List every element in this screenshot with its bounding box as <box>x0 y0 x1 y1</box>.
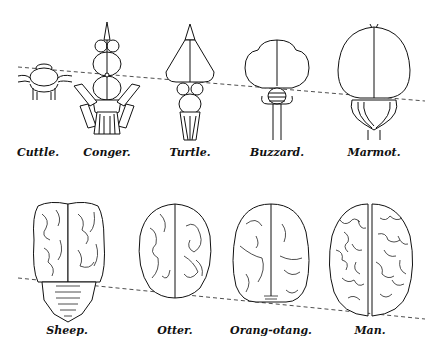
sheep-brain-drawing <box>34 202 105 322</box>
label-marmot: Marmot. <box>348 146 401 159</box>
buzzard-brain-drawing <box>245 40 309 140</box>
label-orang-otang: Orang-otang. <box>230 324 312 337</box>
cuttle-brain-drawing <box>18 64 72 100</box>
man-brain-drawing <box>329 204 412 316</box>
label-buzzard: Buzzard. <box>250 146 304 159</box>
label-cuttle: Cuttle. <box>17 146 59 159</box>
label-conger: Conger. <box>83 146 130 159</box>
label-sheep: Sheep. <box>46 324 87 337</box>
orang-otang-brain-drawing <box>233 204 309 302</box>
conger-brain-drawing <box>74 22 140 134</box>
otter-brain-drawing <box>139 204 211 298</box>
brain-comparison-figure: Cuttle. Conger. Turtle. Buzzard. Marmot.… <box>0 0 435 345</box>
marmot-brain-drawing <box>338 24 410 140</box>
turtle-brain-drawing <box>166 24 214 140</box>
label-otter: Otter. <box>157 324 192 337</box>
illustration-canvas <box>0 0 435 345</box>
label-man: Man. <box>354 324 385 337</box>
label-turtle: Turtle. <box>169 146 210 159</box>
